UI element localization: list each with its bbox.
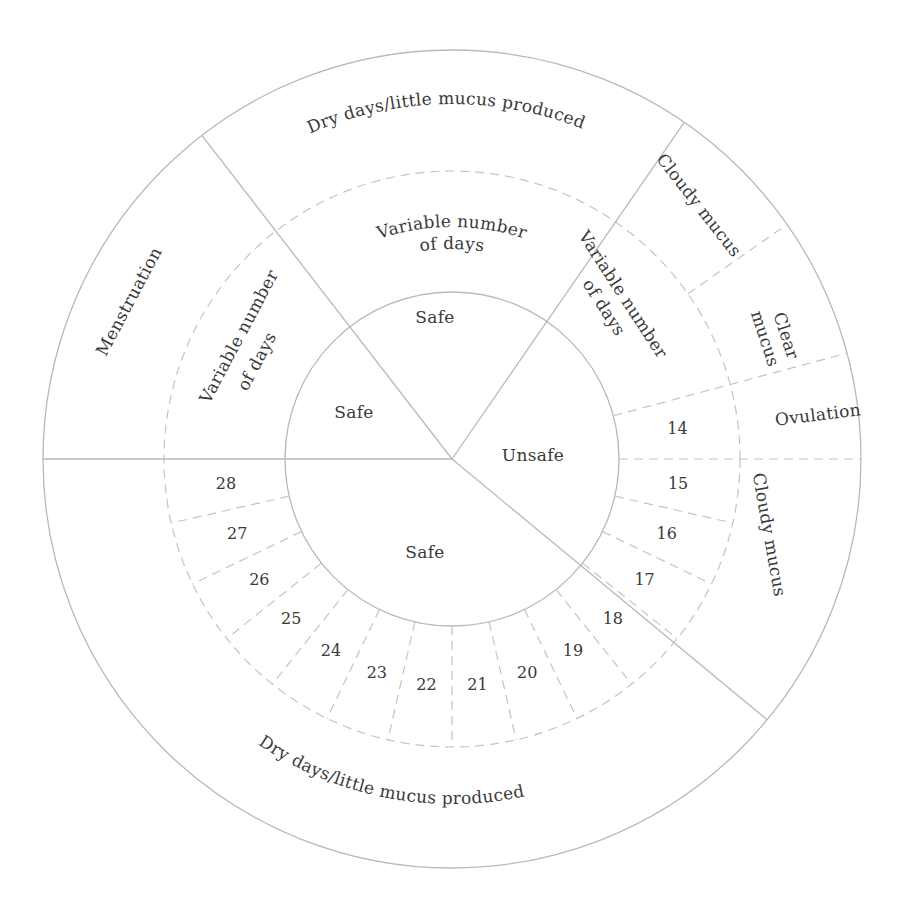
- day-divider-line: [388, 622, 415, 740]
- day-number-28: 28: [216, 474, 236, 493]
- day-divider-line: [272, 590, 347, 685]
- day-number-23: 23: [367, 663, 387, 682]
- inner-label-safe: Safe: [405, 542, 444, 562]
- day-number-15: 15: [668, 474, 688, 493]
- day-number-19: 19: [563, 641, 583, 660]
- clear-mucus-upper-divider: [688, 224, 787, 293]
- day-number-16: 16: [657, 524, 677, 543]
- day-number-25: 25: [281, 609, 301, 628]
- label-dry-days-bottom-path: Dry days/little mucus produced: [256, 731, 526, 808]
- day-number-18: 18: [603, 609, 623, 628]
- label-dry-days-top: Dry days/little mucus produced: [304, 88, 588, 137]
- day-divider-line: [171, 496, 289, 523]
- day-number-27: 27: [227, 524, 247, 543]
- day-number-17: 17: [634, 570, 654, 589]
- wheel-labels: Dry days/little mucus producedDry days/l…: [92, 88, 862, 808]
- day-number-22: 22: [416, 675, 436, 694]
- day-number-20: 20: [517, 663, 537, 682]
- label-dry-days-top-path: Dry days/little mucus produced: [304, 88, 588, 137]
- day-number-14: 14: [667, 419, 687, 438]
- inner-label-safe: Safe: [415, 307, 454, 327]
- label-dry-days-bottom: Dry days/little mucus produced: [256, 731, 526, 808]
- label-cloudy-mucus-top: Cloudy mucus: [653, 150, 746, 261]
- label-variable-top-line2: of days: [418, 233, 485, 255]
- day-divider-line: [556, 590, 631, 685]
- main-divider-line: [452, 459, 767, 720]
- cycle-wheel-diagram: Dry days/little mucus producedDry days/l…: [0, 0, 897, 908]
- main-divider-line: [452, 122, 684, 459]
- day-divider-line: [489, 622, 516, 740]
- day-number-26: 26: [249, 570, 269, 589]
- label-menstruation: Menstruation: [92, 244, 166, 360]
- main-divider-line: [202, 135, 452, 459]
- inner-label-safe: Safe: [334, 402, 373, 422]
- inner-label-unsafe: Unsafe: [502, 445, 564, 465]
- day-number-21: 21: [467, 675, 487, 694]
- label-ovulation: Ovulation: [774, 399, 862, 429]
- label-variable-top-line2-path: of days: [418, 233, 485, 255]
- day-divider-line: [227, 563, 322, 638]
- day-divider-line: [583, 563, 678, 638]
- day-divider-line: [615, 496, 733, 523]
- label-cloudy-mucus-bottom: Cloudy mucus: [749, 471, 790, 598]
- day-number-24: 24: [321, 641, 341, 660]
